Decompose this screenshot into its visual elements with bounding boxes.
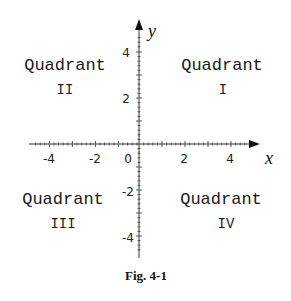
quadrant-ii-label: Quadrant II — [24, 56, 106, 98]
y-axis-arrow-icon — [135, 19, 143, 30]
quadrant-iii-word: Quadrant — [22, 190, 104, 209]
y-axis: 4 2 -2 -4 y — [122, 19, 156, 258]
quadrant-iii-numeral: III — [50, 216, 75, 232]
y-tick-label: -4 — [122, 231, 134, 245]
x-axis-label: x — [264, 148, 273, 168]
quadrant-ii-word: Quadrant — [24, 56, 106, 75]
y-axis-label: y — [146, 21, 156, 41]
quadrant-i-numeral: I — [219, 82, 227, 98]
x-tick-label: -2 — [89, 152, 101, 166]
quadrant-iv-numeral: IV — [218, 216, 235, 232]
quadrant-iv-label: Quadrant IV — [180, 190, 262, 232]
quadrant-iii-label: Quadrant III — [22, 190, 104, 232]
y-tick-label: -2 — [122, 185, 134, 199]
quadrant-i-label: Quadrant I — [181, 56, 263, 98]
x-tick-label: 0 — [124, 152, 132, 166]
x-tick-label: -4 — [43, 152, 55, 166]
x-tick-label: 2 — [180, 152, 188, 166]
y-tick-label: 2 — [122, 92, 130, 106]
x-axis-arrow-icon — [249, 140, 260, 148]
coordinate-plane-diagram: -4 -2 0 2 4 x — [0, 0, 291, 301]
quadrant-iv-word: Quadrant — [180, 190, 262, 209]
y-tick-label: 4 — [122, 46, 130, 60]
quadrant-ii-numeral: II — [57, 82, 74, 98]
x-axis: -4 -2 0 2 4 x — [29, 140, 273, 168]
figure-caption: Fig. 4-1 — [125, 268, 167, 283]
x-tick-label: 4 — [226, 152, 234, 166]
quadrant-i-word: Quadrant — [181, 56, 263, 75]
